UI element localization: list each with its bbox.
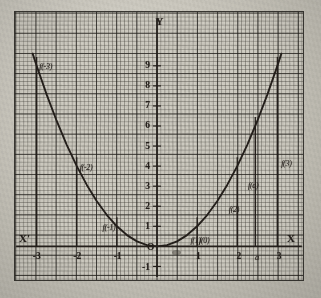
x-axis-label-a: a — [255, 253, 259, 262]
x-axis-label-neg2: -2 — [73, 252, 81, 262]
plot-area — [15, 12, 303, 280]
y-axis-label-2: 2 — [145, 202, 150, 212]
function-value-label: f(3) — [281, 160, 291, 168]
function-value-label: f(-1) — [103, 224, 116, 232]
x-axis-label-2: 2 — [236, 252, 241, 262]
y-axis-label-4: 4 — [145, 162, 150, 172]
x-axis-label-neg3: -3 — [33, 252, 41, 262]
function-value-label: f(1) — [190, 237, 200, 245]
function-value-label: f(a) — [248, 182, 258, 190]
x-axis-negative-name: X' — [19, 233, 30, 244]
function-value-label: f(-2) — [80, 164, 93, 172]
paper-smudge — [172, 250, 181, 255]
y-axis-label-3: 3 — [145, 182, 150, 192]
y-axis-label-8: 8 — [145, 81, 150, 91]
y-axis-label-6: 6 — [145, 121, 150, 131]
y-axis-name: Y — [156, 16, 164, 27]
y-axis-label-7: 7 — [145, 101, 150, 111]
function-value-label: f(2) — [229, 206, 239, 214]
x-axis-label-1: 1 — [196, 252, 201, 262]
y-axis-label-origin: O — [147, 243, 154, 253]
y-axis-label-5: 5 — [145, 142, 150, 152]
x-axis-label-3: 3 — [277, 252, 282, 262]
x-axis-label-neg1: -1 — [114, 252, 122, 262]
function-value-label: f(-3) — [39, 63, 52, 71]
x-axis-name: X — [287, 233, 295, 244]
y-axis-label-1: 1 — [145, 222, 150, 232]
figure-page: -1O123456789-3-2-1123aYXX'f(-3)f(-2)f(-1… — [0, 0, 321, 298]
y-axis-label-neg1: -1 — [142, 263, 150, 273]
graph-plate: -1O123456789-3-2-1123aYXX'f(-3)f(-2)f(-1… — [14, 11, 304, 281]
y-axis-label-9: 9 — [145, 61, 150, 71]
